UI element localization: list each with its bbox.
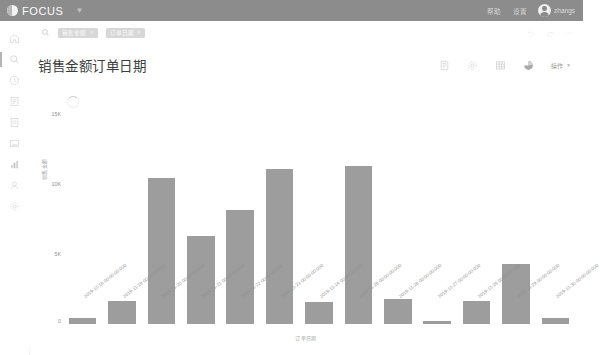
file-icon (9, 117, 20, 128)
sidebar-item-charts[interactable] (0, 154, 29, 175)
y-axis-tick: 0 (47, 318, 61, 324)
user-icon (9, 180, 20, 191)
redo-icon[interactable] (546, 29, 554, 37)
chart-panel: 销售金额订单日期 (29, 44, 583, 348)
chart-panel-header: 销售金额订单日期 (29, 52, 583, 78)
filter-chip-label: 订单日期 (110, 29, 134, 37)
pie-chart-icon[interactable] (523, 60, 534, 71)
page-title: 销售金额订单日期 (38, 55, 146, 75)
top-bar-right: 帮助 设置 zhangs (487, 4, 575, 17)
search-icon (9, 54, 20, 65)
user-avatar-icon (538, 4, 551, 17)
topbar-link-settings[interactable]: 设置 (513, 6, 527, 16)
chevron-down-icon[interactable]: ▼ (76, 6, 84, 15)
sidebar-item-home[interactable] (0, 28, 29, 49)
sidebar-item-assets[interactable] (0, 133, 29, 154)
x-axis-tick-slot: 2019-11-21 00:00:00.000 (181, 291, 220, 336)
focus-logo-icon (7, 5, 18, 16)
x-axis-tick-slot: 2019-11-28 00:00:00.000 (457, 291, 496, 336)
x-axis-tick-slot: 2019-11-22 00:00:00.000 (221, 291, 260, 336)
sidebar-item-recent[interactable] (0, 70, 29, 91)
x-axis-tick-slot: 2019-11-27 00:00:00.000 (418, 291, 457, 336)
y-axis-tick: 15K (47, 111, 61, 117)
top-bar: FOCUS ▼ 帮助 设置 zhangs (0, 0, 583, 21)
x-axis-tick-slot: 2019-11-23 00:00:00.000 (260, 291, 299, 336)
y-axis-tick: 10K (47, 181, 61, 187)
x-axis-tick-slot: 2019-11-20 00:00:00.000 (142, 291, 181, 336)
sidebar-item-search[interactable] (0, 49, 29, 70)
brand-logo[interactable]: FOCUS (7, 5, 64, 17)
x-axis-labels: 2019-11-18 00:00:00.0002019-11-19 00:00:… (63, 291, 575, 336)
brand-name: FOCUS (22, 5, 64, 17)
gear-icon (9, 201, 20, 212)
filter-chip-label: 销售金额 (62, 29, 86, 37)
table-icon[interactable] (495, 60, 506, 71)
search-icon[interactable] (41, 28, 50, 37)
y-axis-title: 销售金额 (40, 158, 47, 180)
x-axis-tick-slot: 2019-11-18 00:00:00.000 (63, 291, 102, 336)
sidebar-item-system-settings[interactable] (0, 196, 29, 217)
list-document-icon (9, 96, 20, 107)
report-icon[interactable] (439, 60, 450, 71)
operation-dropdown[interactable]: 操作 ▼ (551, 61, 571, 70)
topbar-link-help[interactable]: 帮助 (487, 6, 501, 16)
bar-chart-icon (9, 159, 20, 170)
filter-chip-dimension[interactable]: 订单日期 ✕ (106, 28, 146, 38)
x-axis-title: 订单日期 (29, 334, 583, 341)
undo-icon[interactable] (527, 29, 535, 37)
image-icon (9, 138, 20, 149)
sidebar-item-datasets[interactable] (0, 112, 29, 133)
x-axis-tick-slot: 2019-11-19 00:00:00.000 (102, 291, 141, 336)
filter-chip-measure[interactable]: 销售金额 ✕ (58, 28, 98, 38)
operation-label: 操作 (551, 61, 563, 70)
chart-toolbar: 操作 ▼ (439, 60, 571, 71)
home-icon (9, 33, 20, 44)
close-icon[interactable]: ✕ (137, 30, 141, 35)
x-axis-tick-slot: 2019-11-29 00:00:00.000 (496, 291, 535, 336)
more-icon[interactable] (565, 29, 573, 37)
gear-icon[interactable] (467, 60, 478, 71)
user-name: zhangs (554, 7, 575, 14)
chevron-down-icon: ▼ (566, 62, 571, 68)
close-icon[interactable]: ✕ (89, 30, 93, 35)
clock-icon (9, 75, 20, 86)
x-axis-tick-slot: 2019-11-26 00:00:00.000 (378, 291, 417, 336)
chart-container: 销售金额 15K 10K 5K 0 2019-11-18 00:00:00.00… (29, 76, 583, 348)
y-axis-tick: 5K (47, 251, 61, 257)
sidebar-item-users[interactable] (0, 175, 29, 196)
x-axis-tick-slot: 2019-11-30 00:00:00.000 (536, 291, 575, 336)
sidebar-item-reports[interactable] (0, 91, 29, 112)
filter-toolbar: 销售金额 ✕ 订单日期 ✕ (29, 21, 583, 45)
filter-toolbar-actions (527, 29, 573, 37)
user-menu[interactable]: zhangs (538, 4, 575, 17)
sidebar (0, 21, 30, 355)
x-axis-tick-slot: 2019-11-24 00:00:00.000 (299, 291, 338, 336)
x-axis-tick-slot: 2019-11-25 00:00:00.000 (339, 291, 378, 336)
